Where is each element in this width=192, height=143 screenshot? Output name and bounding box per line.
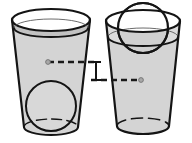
height-difference-marker xyxy=(91,62,101,80)
left-center-marker-dot xyxy=(46,60,51,65)
diagram-root: Two glasses each containing a sphere at … xyxy=(0,0,192,143)
right-center-marker-dot xyxy=(139,78,144,83)
left-glass-group xyxy=(12,9,90,135)
left-glass-rim xyxy=(12,9,90,31)
left-sphere xyxy=(26,81,76,131)
right-glass-group xyxy=(106,3,180,134)
left-glass-waterline-back xyxy=(14,19,88,28)
two-glasses-diagram xyxy=(0,0,192,143)
